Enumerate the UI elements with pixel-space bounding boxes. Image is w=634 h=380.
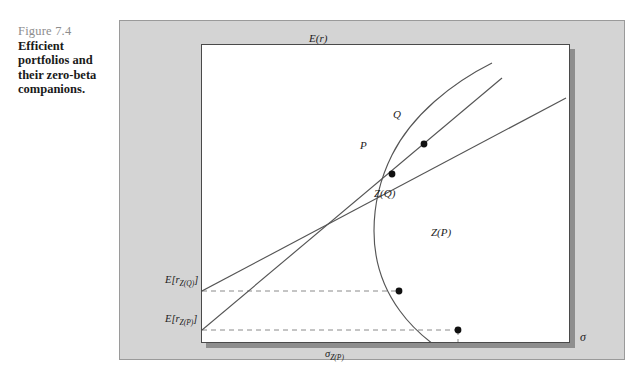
- y-tick-label-er-zq-main: E[r: [165, 274, 180, 285]
- data-point-label-zp: Z(P): [431, 227, 451, 238]
- figure-title: Efficient portfolios and their zero-beta…: [18, 39, 114, 97]
- tangent-line-p: [202, 78, 502, 330]
- y-tick-label-er-zp: E[rZ(P)]: [165, 314, 197, 327]
- data-point-label-p: P: [360, 140, 367, 151]
- y-tick-label-er-zp-subscript: Z(P): [180, 318, 194, 327]
- data-point-zp: [455, 327, 462, 334]
- y-tick-label-er-zp-bracket: ]: [193, 313, 197, 324]
- data-point-q: [421, 141, 428, 148]
- y-tick-label-er-zq-bracket: ]: [194, 274, 198, 285]
- x-axis-label: σ: [580, 331, 586, 343]
- y-tick-label-er-zp-main: E[r: [165, 313, 180, 324]
- y-tick-label-er-zq: E[rZ(Q)]: [165, 275, 198, 288]
- plot-card: P Q Z(Q) Z(P): [201, 44, 570, 343]
- minimum-variance-frontier-curve: [374, 63, 502, 342]
- y-axis-label: E(r): [309, 33, 327, 44]
- data-point-p: [389, 171, 396, 178]
- figure-panel: E(r) σ E[rZ(Q)] E[rZ(P)] σZ(P): [119, 20, 625, 360]
- data-point-label-zq: Z(Q): [374, 188, 395, 199]
- data-point-label-q: Q: [393, 109, 401, 120]
- y-tick-label-er-zq-subscript: Z(Q): [180, 279, 195, 288]
- x-tick-label-sigma-zp-subscript: Z(P): [330, 353, 344, 362]
- data-point-zq: [396, 288, 403, 295]
- x-tick-label-sigma-zp: σZ(P): [325, 349, 344, 362]
- figure-caption: Figure 7.4 Efficient portfolios and thei…: [18, 24, 114, 97]
- figure-number: Figure 7.4: [18, 24, 114, 39]
